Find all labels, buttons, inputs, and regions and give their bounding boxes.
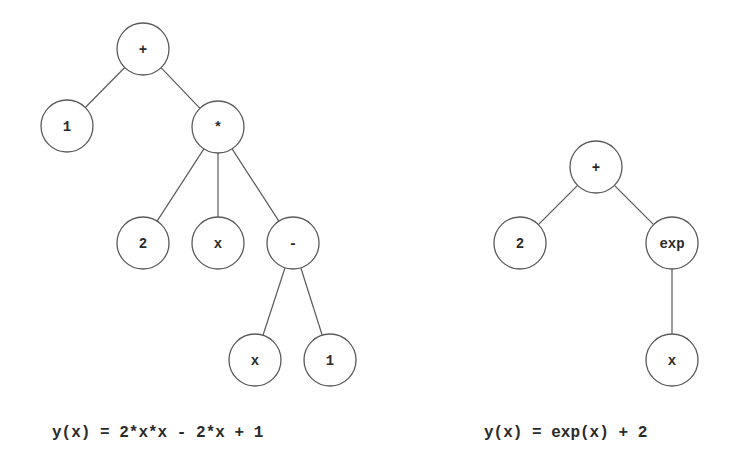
tree-node-x: x	[192, 217, 244, 269]
node-label: x	[668, 353, 677, 369]
tree-node-1: 1	[304, 334, 356, 386]
node-label: x	[251, 353, 260, 369]
node-label: x	[214, 236, 223, 252]
tree-right-nodes: +2expx	[494, 141, 698, 386]
tree-left: +1*2x-x1	[41, 23, 356, 386]
tree-node-x: x	[646, 334, 698, 386]
caption-right-formula: y(x) = exp(x) + 2	[484, 424, 647, 442]
tree-node-1: 1	[41, 100, 93, 152]
tree-node-minus: -	[267, 217, 319, 269]
node-label: +	[139, 42, 147, 58]
edge-R0-R1	[538, 185, 577, 224]
node-label: 2	[516, 236, 524, 252]
tree-node-times: *	[192, 101, 244, 153]
node-label: -	[289, 236, 297, 252]
caption-left-formula: y(x) = 2*x*x - 2*x + 1	[52, 424, 263, 442]
edge-L2-L3	[157, 149, 204, 221]
tree-node-exp: exp	[646, 217, 698, 269]
tree-node-2: 2	[494, 217, 546, 269]
edge-L0-L1	[85, 68, 124, 108]
expression-tree-diagram: +1*2x-x1 +2expx	[0, 0, 735, 467]
edge-L0-L2	[161, 68, 200, 109]
edge-L5-L7	[301, 268, 322, 335]
tree-node-2: 2	[117, 217, 169, 269]
node-label: 1	[63, 119, 71, 135]
tree-right: +2expx	[494, 141, 698, 386]
node-label: +	[592, 160, 600, 176]
edge-L2-L5	[232, 149, 279, 221]
tree-node-plus: +	[570, 141, 622, 193]
node-label: 2	[139, 236, 147, 252]
tree-node-x: x	[229, 334, 281, 386]
edge-L5-L6	[263, 268, 285, 336]
edge-R0-R2	[614, 185, 653, 224]
tree-node-plus: +	[117, 23, 169, 75]
node-label: 1	[326, 353, 334, 369]
node-label: exp	[659, 236, 684, 252]
tree-left-nodes: +1*2x-x1	[41, 23, 356, 386]
node-label: *	[214, 120, 222, 136]
